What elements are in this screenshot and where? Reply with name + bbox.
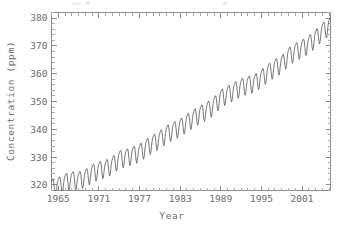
co2-series-line [52,18,331,190]
plot-frame [52,13,331,191]
chart-canvas: 1965197119771983198919952001 32033034035… [0,0,343,225]
y-tick-label: 330 [30,152,47,163]
y-tick-label: 360 [30,68,47,79]
chart-figure: 1965197119771983198919952001 32033034035… [0,0,343,225]
x-tick-label: 1995 [250,193,273,204]
y-tick-label: 340 [30,124,47,135]
x-tick-label: 2001 [291,193,314,204]
x-axis-tick-labels: 1965197119771983198919952001 [47,193,314,204]
cropped-title-artifact [72,2,227,6]
x-axis-ticks [52,13,330,191]
x-tick-label: 1977 [128,193,151,204]
x-tick-label: 1971 [87,193,110,204]
y-tick-label: 370 [30,40,47,51]
y-tick-label: 380 [30,12,47,23]
y-axis-title: Concentration (ppm) [5,41,16,161]
x-axis-title: Year [159,210,184,221]
x-tick-label: 1989 [209,193,232,204]
y-axis-ticks [52,13,331,191]
y-tick-label: 350 [30,96,47,107]
x-tick-label: 1983 [169,193,192,204]
x-tick-label: 1965 [47,193,70,204]
y-axis-tick-labels: 320330340350360370380 [30,12,47,190]
y-tick-label: 320 [30,179,47,190]
